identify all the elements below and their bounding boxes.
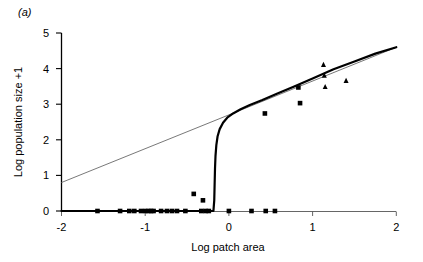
data-point-square — [298, 101, 303, 106]
data-point-square — [132, 209, 137, 214]
data-point-square — [273, 209, 278, 214]
data-point-square — [263, 111, 268, 116]
chart-line-linear-regression — [62, 47, 397, 182]
x-tick-label: 2 — [393, 221, 399, 233]
data-point-square — [151, 209, 156, 214]
x-tick-label: 1 — [310, 221, 316, 233]
data-point-square — [170, 209, 175, 214]
data-point-triangle — [344, 78, 349, 83]
y-tick-label: 1 — [43, 169, 49, 181]
data-point-square — [207, 209, 212, 214]
data-point-square — [159, 209, 164, 214]
data-point-square — [183, 209, 188, 214]
chart-lines-layer — [62, 47, 397, 211]
x-axis-title: Log patch area — [191, 241, 265, 253]
x-tick-label: 0 — [226, 221, 232, 233]
y-tick-label: 2 — [43, 134, 49, 146]
data-point-square — [199, 209, 204, 214]
chart-line-threshold-model — [62, 47, 397, 211]
y-tick-label: 4 — [43, 63, 49, 75]
data-point-square — [139, 209, 144, 214]
data-point-square — [175, 209, 180, 214]
data-point-triangle — [321, 62, 326, 67]
data-point-square — [201, 198, 206, 203]
y-axis-title: Log population size +1 — [12, 67, 24, 177]
data-point-square — [227, 209, 232, 214]
y-axis-ticks — [56, 33, 62, 211]
x-axis-tick-labels: -2 -1 0 1 2 — [57, 221, 400, 233]
data-point-square — [191, 192, 196, 197]
chart-markers-layer — [95, 62, 348, 213]
data-point-square — [296, 85, 301, 90]
x-tick-label: -2 — [57, 221, 67, 233]
y-tick-label: 3 — [43, 98, 49, 110]
data-point-triangle — [323, 84, 328, 89]
data-point-square — [95, 209, 100, 214]
data-point-square — [118, 209, 123, 214]
x-tick-label: -1 — [140, 221, 150, 233]
data-point-square — [263, 209, 268, 214]
data-point-square — [127, 209, 132, 214]
figure-panel: (a) 5 4 3 2 1 0 — [0, 0, 423, 262]
data-point-square — [165, 209, 170, 214]
y-tick-label: 0 — [43, 205, 49, 217]
y-axis-tick-labels: 5 4 3 2 1 0 — [43, 27, 49, 217]
chart-plot-area: 5 4 3 2 1 0 -2 -1 0 1 2 Log patch area L… — [0, 0, 423, 262]
y-tick-label: 5 — [43, 27, 49, 39]
data-point-square — [249, 209, 254, 214]
